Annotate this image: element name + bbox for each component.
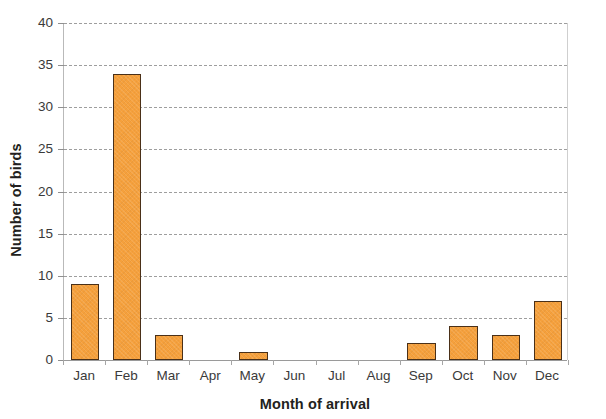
x-axis-tick [400, 360, 401, 365]
bar[interactable] [449, 326, 478, 360]
x-axis-tick-label: Aug [358, 368, 400, 383]
x-axis-tick [273, 360, 274, 365]
bar-slot [359, 23, 401, 360]
y-axis-tick [58, 65, 64, 66]
bar-slot [190, 23, 232, 360]
x-axis-tick-label: Jan [63, 368, 105, 383]
y-axis-tick [58, 192, 64, 193]
x-axis-tick [442, 360, 443, 365]
y-axis-tick [58, 276, 64, 277]
y-axis-tick [58, 318, 64, 319]
x-axis-tick [568, 360, 569, 365]
y-axis-tick-label: 35 [11, 58, 53, 72]
y-axis-tick [58, 149, 64, 150]
bar-slot [106, 23, 148, 360]
x-axis-tick-label: Jul [316, 368, 358, 383]
x-axis-tick-label: Mar [147, 368, 189, 383]
bar-slot [317, 23, 359, 360]
x-axis-tick [484, 360, 485, 365]
bars [64, 23, 567, 360]
bar[interactable] [492, 335, 521, 360]
x-axis-tick [231, 360, 232, 365]
bar[interactable] [113, 74, 142, 360]
y-axis-tick [58, 107, 64, 108]
bar-slot [401, 23, 443, 360]
x-axis-tick [526, 360, 527, 365]
y-axis-tick [58, 234, 64, 235]
x-axis-tick-label: Apr [189, 368, 231, 383]
bar-slot [232, 23, 274, 360]
x-axis-tick-label: Jun [273, 368, 315, 383]
y-axis-tick-label: 40 [11, 16, 53, 30]
x-axis-tick-label: Dec [526, 368, 568, 383]
bar-slot [443, 23, 485, 360]
x-axis-tick [358, 360, 359, 365]
y-axis-tick-label: 20 [11, 185, 53, 199]
bar-chart: Number of birds 0510152025303540 JanFebM… [0, 0, 606, 419]
y-axis-tick-label: 10 [11, 269, 53, 283]
x-axis-tick-label: Oct [442, 368, 484, 383]
x-axis-tick-label: Feb [105, 368, 147, 383]
bar-slot [274, 23, 316, 360]
y-axis-tick-label: 5 [11, 311, 53, 325]
y-axis-tick-label: 25 [11, 143, 53, 157]
x-axis-tick-label: Nov [484, 368, 526, 383]
bar[interactable] [71, 284, 100, 360]
plot-area [63, 23, 568, 360]
x-axis-tick [316, 360, 317, 365]
y-axis-title: Number of birds [4, 20, 28, 380]
x-axis-tick [189, 360, 190, 365]
bar[interactable] [155, 335, 184, 360]
bar[interactable] [407, 343, 436, 360]
y-axis-tick [58, 23, 64, 24]
x-axis-tick-label: Sep [400, 368, 442, 383]
bar[interactable] [534, 301, 563, 360]
y-axis-tick-label: 15 [11, 227, 53, 241]
bar[interactable] [239, 352, 268, 360]
bar-slot [527, 23, 569, 360]
x-axis-tick [105, 360, 106, 365]
x-axis-tick [147, 360, 148, 365]
bar-slot [148, 23, 190, 360]
x-axis-tick-label: May [231, 368, 273, 383]
x-axis-title: Month of arrival [60, 396, 570, 412]
y-axis-tick-label: 30 [11, 101, 53, 115]
bar-slot [64, 23, 106, 360]
y-axis-tick-label: 0 [11, 353, 53, 367]
x-axis-tick [63, 360, 64, 365]
bar-slot [485, 23, 527, 360]
